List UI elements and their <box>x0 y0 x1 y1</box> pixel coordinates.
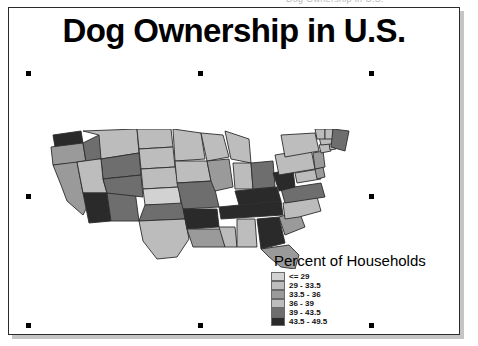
map-region-alabama[interactable] <box>237 219 257 247</box>
handle-top-left[interactable] <box>26 71 31 76</box>
map-legend: Percent of Households <= 2929 - 33.533.5… <box>271 252 457 326</box>
map-region-indiana[interactable] <box>233 163 253 189</box>
handle-middle-left[interactable] <box>26 194 31 199</box>
page-title: Dog Ownership in U.S. <box>9 14 459 47</box>
legend-row: 33.5 - 36 <box>271 290 457 299</box>
map-region-ohio[interactable] <box>251 161 275 189</box>
handle-bottom-right[interactable] <box>369 323 374 328</box>
legend-label: <= 29 <box>289 272 309 281</box>
handle-bottom-left[interactable] <box>26 323 31 328</box>
legend-swatch <box>271 290 285 299</box>
legend-swatch <box>271 281 285 290</box>
map-region-wisconsin[interactable] <box>201 133 229 161</box>
legend-row: 39 - 43.5 <box>271 308 457 317</box>
map-region-louisiana[interactable] <box>187 229 225 247</box>
legend-label: 29 - 33.5 <box>289 281 321 290</box>
map-region-minnesota[interactable] <box>173 129 205 161</box>
map-region-arkansas[interactable] <box>183 209 219 229</box>
map-region-michigan[interactable] <box>225 131 251 163</box>
map-region-kansas[interactable] <box>143 187 181 205</box>
map-region-south-dakota[interactable] <box>139 147 175 169</box>
us-choropleth-map[interactable] <box>37 129 357 269</box>
legend-swatch <box>271 272 285 281</box>
legend-label: 36 - 39 <box>289 299 314 308</box>
clipped-top-text-strip: Dog Ownership in U.S. <box>0 0 478 7</box>
map-region-vermont[interactable] <box>315 129 325 139</box>
map-region-maine[interactable] <box>331 129 349 151</box>
legend-row: <= 29 <box>271 272 457 281</box>
legend-label: 33.5 - 36 <box>289 290 321 299</box>
legend-row: 43.5 - 49.5 <box>271 317 457 326</box>
legend-swatch <box>271 299 285 308</box>
clipped-top-text: Dog Ownership in U.S. <box>286 0 384 4</box>
legend-row: 36 - 39 <box>271 299 457 308</box>
legend-rows: <= 2929 - 33.533.5 - 3636 - 3939 - 43.54… <box>271 272 457 326</box>
handle-bottom-center[interactable] <box>198 323 203 328</box>
map-region-tennessee[interactable] <box>219 201 283 219</box>
legend-label: 39 - 43.5 <box>289 308 321 317</box>
us-map-svg <box>37 129 357 269</box>
map-canvas: Dog Ownership in U.S. Percent of Househo… <box>9 8 459 334</box>
map-region-oklahoma[interactable] <box>139 203 185 221</box>
map-region-iowa[interactable] <box>175 161 211 183</box>
handle-middle-right[interactable] <box>369 194 374 199</box>
map-object-frame[interactable]: Dog Ownership in U.S. Percent of Househo… <box>8 7 460 335</box>
legend-swatch <box>271 308 285 317</box>
map-region-texas[interactable] <box>139 219 189 259</box>
legend-label: 43.5 - 49.5 <box>289 317 327 326</box>
legend-swatch <box>271 317 285 326</box>
map-region-new-jersey[interactable] <box>313 151 325 169</box>
handle-top-center[interactable] <box>198 71 203 76</box>
handle-top-right[interactable] <box>369 71 374 76</box>
legend-row: 29 - 33.5 <box>271 281 457 290</box>
legend-title: Percent of Households <box>274 252 457 269</box>
map-region-arizona[interactable] <box>83 193 111 223</box>
map-region-north-dakota[interactable] <box>137 129 173 149</box>
map-region-nebraska[interactable] <box>141 167 179 189</box>
